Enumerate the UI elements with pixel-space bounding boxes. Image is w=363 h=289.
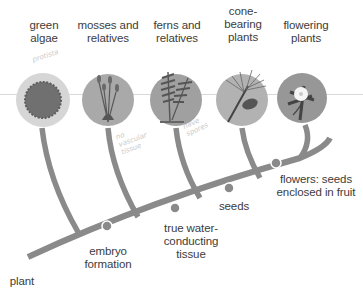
trait-line: formation [78,258,138,271]
label-line: green [13,19,75,32]
trait-seeds: seeds [212,200,256,213]
trait-line: tissue [156,248,226,261]
trait-flowers: flowers: seeds enclosed in fruit [270,173,362,199]
flowering-illustration [277,73,327,123]
cladogram-diagram: green algae mosses and relatives ferns a… [0,0,363,289]
label-ferns: ferns and relatives [144,19,210,45]
label-line: relatives [144,32,210,45]
label-green-algae: green algae [13,19,75,45]
trait-line: true water- [156,222,226,235]
trait-line: enclosed in fruit [270,186,362,199]
label-cone-bearing: cone- bearing plants [212,5,274,44]
mosses-illustration [82,74,134,126]
node-embryo [102,221,112,231]
branch-green-algae [42,128,78,232]
trait-line: seeds [212,200,256,213]
label-line: cone- [212,5,274,18]
node-water [170,203,180,213]
label-line: algae [13,32,75,45]
trait-line: flowers: seeds [270,173,362,186]
node-flowers [271,158,281,168]
trait-line: embryo [78,245,138,258]
green-algae-illustration [16,73,70,127]
node-seeds [224,183,234,193]
label-flowering: flowering plants [275,19,337,45]
cone-bearing-illustration [216,70,268,126]
label-mosses: mosses and relatives [75,19,141,45]
branch-ferns [176,128,200,198]
label-line: flowering [275,19,337,32]
trait-line: conducting [156,235,226,248]
label-line: plants [275,32,337,45]
trait-embryo: embryo formation [78,245,138,271]
label-line: ferns and [144,19,210,32]
root-label: plant [2,275,42,288]
label-line: plants [212,31,274,44]
trait-water: true water- conducting tissue [156,222,226,261]
label-line: bearing [212,18,274,31]
label-line: mosses and [75,19,141,32]
label-line: relatives [75,32,141,45]
